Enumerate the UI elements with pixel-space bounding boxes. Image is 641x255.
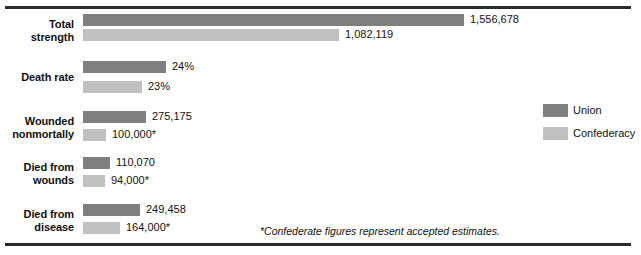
- category-label-death-rate: Death rate: [0, 71, 74, 84]
- bar-value-union: 1,556,678: [470, 13, 519, 26]
- bar-confederacy: [83, 29, 339, 41]
- bar-value-union: 24%: [172, 60, 194, 73]
- bottom-rule: [5, 243, 631, 246]
- top-rule: [5, 6, 631, 9]
- bar-union: [83, 111, 146, 123]
- bar-value-union: 275,175: [152, 110, 192, 123]
- bar-value-confederacy: 164,000*: [126, 221, 170, 234]
- category-label-line1: Wounded: [0, 115, 74, 128]
- bar-value-confederacy: 1,082,119: [345, 28, 393, 41]
- bar-confederacy: [83, 81, 142, 93]
- bar-confederacy: [83, 129, 106, 141]
- category-label-line2: disease: [0, 221, 74, 234]
- category-label-line1: Death rate: [0, 71, 74, 84]
- bar-value-confederacy: 23%: [148, 80, 170, 93]
- category-label-line1: Total: [0, 18, 74, 31]
- category-label-line2: wounds: [0, 174, 74, 187]
- category-label-total-strength: Total strength: [0, 18, 74, 43]
- category-label-line1: Died from: [0, 161, 74, 174]
- category-label-died-from-disease: Died from disease: [0, 208, 74, 233]
- category-label-line2: strength: [0, 31, 74, 44]
- category-label-line1: Died from: [0, 208, 74, 221]
- category-label-line2: nonmortally: [0, 128, 74, 141]
- bar-union: [83, 204, 140, 216]
- legend-label-confederacy: Confederacy: [573, 127, 635, 140]
- civil-war-casualties-chart: Total strength 1,556,678 1,082,119 Death…: [0, 0, 641, 255]
- legend-swatch-union-icon: [543, 104, 568, 117]
- bar-confederacy: [83, 222, 120, 234]
- category-label-wounded-nonmortally: Wounded nonmortally: [0, 115, 74, 140]
- bar-value-confederacy: 94,000*: [111, 174, 149, 187]
- bar-union: [83, 14, 464, 26]
- category-label-died-from-wounds: Died from wounds: [0, 161, 74, 186]
- bar-value-union: 110,070: [116, 156, 155, 169]
- bar-value-union: 249,458: [146, 203, 186, 216]
- bar-confederacy: [83, 175, 105, 187]
- bar-union: [83, 157, 110, 169]
- bar-value-confederacy: 100,000*: [112, 128, 156, 141]
- legend-swatch-confederacy-icon: [543, 127, 568, 140]
- footnote: *Confederate figures represent accepted …: [260, 225, 500, 237]
- bar-union: [83, 61, 166, 73]
- legend-label-union: Union: [573, 104, 602, 117]
